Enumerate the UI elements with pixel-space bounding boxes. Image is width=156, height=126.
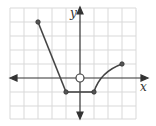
y-axis-label: y (69, 6, 77, 20)
y-axis-down-arrow-icon (77, 112, 83, 119)
y-axis (77, 7, 83, 119)
closed-point (92, 90, 96, 94)
grid (10, 8, 136, 119)
closed-point (120, 62, 124, 66)
open-point-origin (76, 74, 84, 82)
x-axis-label: x (140, 80, 147, 94)
closed-point (64, 90, 68, 94)
function-graph: x y (0, 0, 156, 126)
x-axis-left-arrow-icon (10, 75, 17, 81)
closed-point (36, 20, 40, 24)
